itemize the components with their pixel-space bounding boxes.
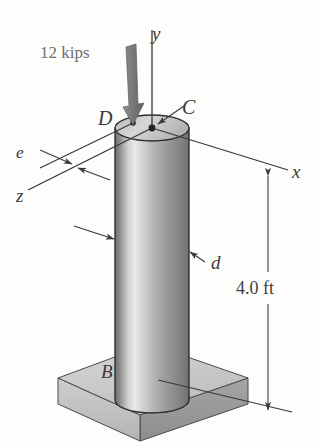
diameter-label: d xyxy=(211,253,221,272)
diameter-leader-left xyxy=(74,226,114,239)
load-label: 12 kips xyxy=(40,44,90,61)
axis-z-label: z xyxy=(16,186,23,205)
axis-y-label: y xyxy=(152,24,160,43)
eccentricity-label: e xyxy=(16,144,24,161)
figure-container: 12 kips y x z e d C D B 4.0 ft xyxy=(0,0,318,447)
eccentricity-callout-arrow xyxy=(78,168,110,180)
height-label: 4.0 ft xyxy=(236,279,274,297)
point-c-label: C xyxy=(182,97,195,117)
point-b-label: B xyxy=(101,362,113,381)
eccentricity-leader xyxy=(40,150,72,164)
load-arrow xyxy=(123,44,144,125)
axis-x-label: x xyxy=(292,162,300,181)
point-d-label: D xyxy=(98,108,112,128)
column-cylinder xyxy=(115,115,189,413)
point-c-marker xyxy=(149,125,156,132)
cylinder-barrel xyxy=(115,128,189,413)
load-arrow-shape xyxy=(123,44,144,125)
column-diagram-svg xyxy=(0,0,318,447)
diameter-leader-right xyxy=(190,252,205,262)
